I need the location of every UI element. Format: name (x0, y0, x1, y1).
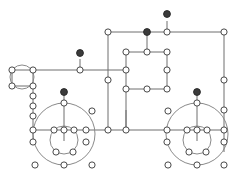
left-loose-ne[interactable] (89, 108, 95, 114)
right-wheel-sw[interactable] (164, 139, 170, 145)
left-wheel-se[interactable] (83, 139, 89, 145)
diagram-canvas (0, 0, 244, 188)
right-hub-east[interactable] (204, 127, 210, 133)
left-wheel-top[interactable] (61, 100, 67, 106)
right-wheel-west[interactable] (164, 127, 170, 133)
upper-rail-node[interactable] (77, 67, 83, 73)
right-loose-se[interactable] (221, 162, 227, 168)
right-inner-sw[interactable] (186, 149, 192, 155)
left-wheel-bottom[interactable] (61, 162, 67, 168)
right-loose-nw[interactable] (165, 108, 171, 114)
right-rail-hub[interactable] (221, 127, 227, 133)
filled-right-wheel-stem[interactable] (194, 89, 201, 96)
center-bottom-left[interactable] (105, 127, 111, 133)
top-right-corner[interactable] (221, 29, 227, 35)
box-top-mid[interactable] (144, 49, 150, 55)
box-bottom-mid[interactable] (144, 86, 150, 92)
small-circle-bottom-left[interactable] (9, 83, 15, 89)
left-hub-west[interactable] (51, 127, 57, 133)
left-wheel-east[interactable] (83, 127, 89, 133)
right-wheel-bottom[interactable] (194, 162, 200, 168)
box-mid-right[interactable] (164, 67, 170, 73)
left-chain-3[interactable] (30, 113, 36, 119)
box-bottom-right[interactable] (164, 86, 170, 92)
top-left-junction[interactable] (105, 29, 111, 35)
filled-left-wheel-stem[interactable] (61, 89, 68, 96)
box-top-left[interactable] (123, 49, 129, 55)
right-loose-sw[interactable] (165, 162, 171, 168)
ring-layer (10, 65, 228, 165)
open-node-layer (9, 29, 227, 168)
left-loose-sw[interactable] (32, 162, 38, 168)
top-mid-junction[interactable] (164, 29, 170, 35)
filled-node-layer (61, 11, 201, 96)
box-top-right[interactable] (164, 49, 170, 55)
left-hub-east[interactable] (71, 127, 77, 133)
small-circle-top-right[interactable] (30, 67, 36, 73)
filled-top-stem[interactable] (164, 11, 171, 18)
right-rail-hub-lower[interactable] (221, 139, 227, 145)
left-chain-2[interactable] (30, 103, 36, 109)
small-circle-bottom-right[interactable] (30, 83, 36, 89)
filled-inner-stem[interactable] (144, 29, 151, 36)
node-link-diagram (0, 0, 244, 188)
left-loose-se[interactable] (89, 162, 95, 168)
right-inner-se[interactable] (203, 149, 209, 155)
left-vertical-mid[interactable] (105, 77, 111, 83)
filled-left-stem[interactable] (77, 50, 84, 57)
right-wheel-hub[interactable] (194, 127, 200, 133)
left-chain-1[interactable] (30, 93, 36, 99)
right-wheel-top[interactable] (194, 100, 200, 106)
edge-layer (12, 21, 224, 152)
left-chain-5[interactable] (30, 139, 36, 145)
box-mid-left[interactable] (123, 67, 129, 73)
left-inner-sw[interactable] (53, 149, 59, 155)
left-wheel-hub[interactable] (61, 127, 67, 133)
box-bottom-left[interactable] (123, 86, 129, 92)
right-hub-west[interactable] (184, 127, 190, 133)
right-rail-lower[interactable] (221, 107, 227, 113)
left-inner-se[interactable] (70, 149, 76, 155)
center-bottom-right[interactable] (123, 127, 129, 133)
right-rail-upper[interactable] (221, 77, 227, 83)
left-chain-4[interactable] (30, 127, 36, 133)
small-circle-top-left[interactable] (9, 67, 15, 73)
